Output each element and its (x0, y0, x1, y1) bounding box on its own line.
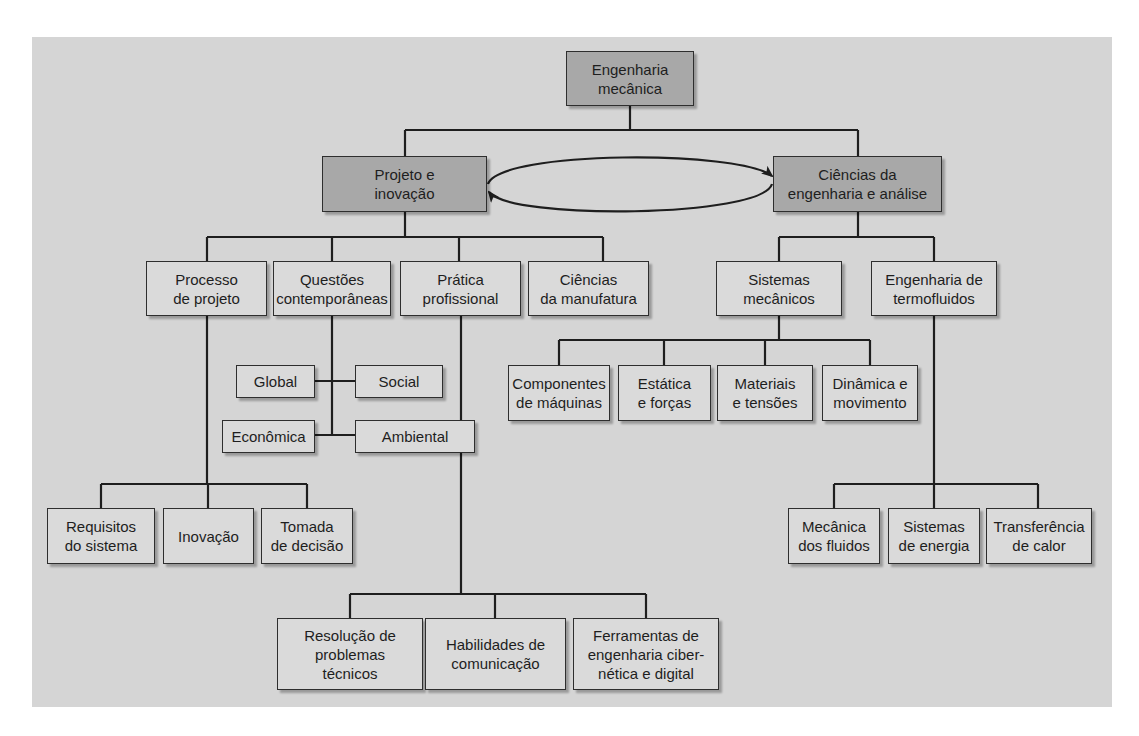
node-thermofluids: Engenharia de termofluidos (871, 261, 997, 316)
node-system-requirements: Requisitos do sistema (47, 508, 155, 564)
node-mechanical-engineering: Engenharia mecânica (566, 51, 694, 106)
node-machine-components: Componentes de máquinas (508, 365, 610, 421)
node-fluid-mechanics: Mecânica dos fluidos (788, 508, 880, 564)
node-cyber-digital-tools: Ferramentas de engenharia ciber- nética … (573, 618, 719, 690)
node-decision-making: Tomada de decisão (261, 508, 353, 564)
node-global: Global (236, 365, 315, 398)
node-manufacturing-sciences: Ciências da manufatura (528, 261, 649, 316)
node-materials-stresses: Materiais e tensões (717, 365, 813, 421)
node-dynamics-motion: Dinâmica e movimento (822, 365, 918, 421)
node-innovation: Inovação (163, 508, 254, 564)
node-environmental: Ambiental (355, 420, 475, 453)
node-heat-transfer: Transferência de calor (986, 508, 1092, 564)
node-technical-problem-solving: Resolução de problemas técnicos (277, 618, 423, 690)
node-energy-systems: Sistemas de energia (888, 508, 980, 564)
node-mechanical-systems: Sistemas mecânicos (716, 261, 842, 316)
node-engineering-sciences: Ciências da engenharia e análise (773, 156, 942, 212)
node-contemporary-issues: Questões contemporâneas (273, 261, 391, 316)
node-communication-skills: Habilidades de comunicação (425, 618, 566, 690)
node-social: Social (355, 365, 443, 398)
node-economic: Econômica (222, 420, 315, 453)
node-professional-practice: Prática profissional (400, 261, 521, 316)
node-statics-forces: Estática e forças (618, 365, 711, 421)
node-design-innovation: Projeto e inovação (322, 156, 487, 212)
node-design-process: Processo de projeto (146, 261, 267, 316)
